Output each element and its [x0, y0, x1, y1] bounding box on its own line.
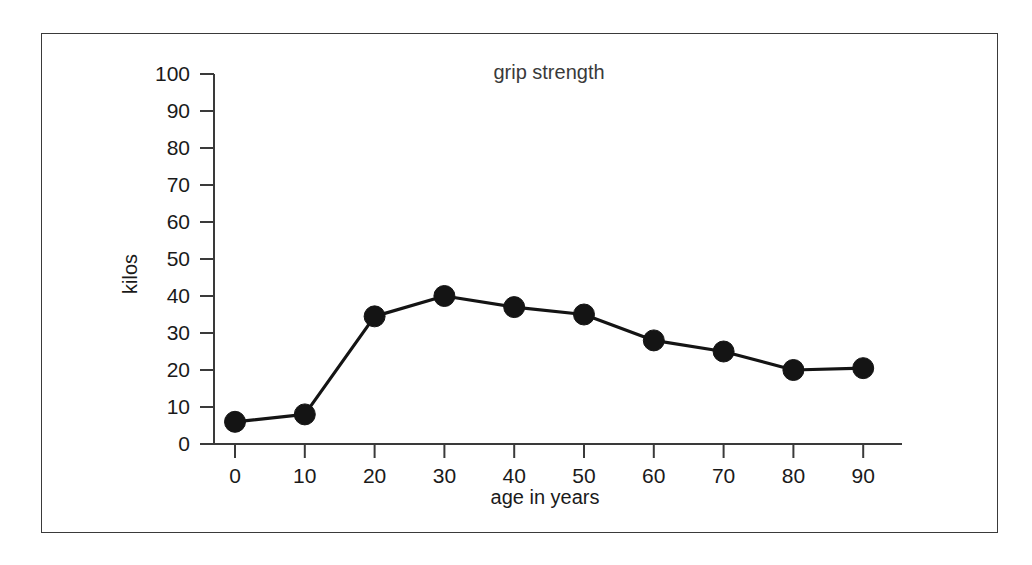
- y-axis-ticks: 0102030405060708090100: [155, 62, 214, 455]
- x-tick-label: 10: [293, 464, 316, 487]
- x-tick-label: 50: [572, 464, 595, 487]
- data-point-marker: [434, 286, 455, 307]
- y-tick-label: 0: [178, 432, 190, 455]
- x-tick-label: 20: [363, 464, 386, 487]
- x-tick-label: 80: [782, 464, 805, 487]
- x-tick-label: 70: [712, 464, 735, 487]
- y-axis-label: kilos: [119, 254, 141, 294]
- x-tick-label: 90: [852, 464, 875, 487]
- data-point-marker: [713, 341, 734, 362]
- y-tick-label: 50: [167, 247, 190, 270]
- chart-title: grip strength: [493, 61, 604, 83]
- figure-frame: grip strength kilos age in years 0102030…: [41, 33, 998, 533]
- x-tick-label: 0: [229, 464, 241, 487]
- y-tick-label: 70: [167, 173, 190, 196]
- x-axis-ticks: 0102030405060708090: [229, 444, 875, 487]
- x-tick-label: 60: [642, 464, 665, 487]
- y-tick-label: 10: [167, 395, 190, 418]
- y-tick-label: 30: [167, 321, 190, 344]
- series-line-grip-strength: [235, 296, 863, 422]
- x-axis-label: age in years: [491, 486, 600, 508]
- y-tick-label: 60: [167, 210, 190, 233]
- data-point-marker: [643, 330, 664, 351]
- data-point-marker: [364, 306, 385, 327]
- data-point-marker: [574, 304, 595, 325]
- data-point-marker: [504, 297, 525, 318]
- line-chart: grip strength kilos age in years 0102030…: [42, 34, 997, 532]
- series-markers: [225, 286, 874, 433]
- data-point-marker: [294, 404, 315, 425]
- y-tick-label: 100: [155, 62, 190, 85]
- y-tick-label: 90: [167, 99, 190, 122]
- y-tick-label: 20: [167, 358, 190, 381]
- data-point-marker: [853, 358, 874, 379]
- data-point-marker: [783, 360, 804, 381]
- y-tick-label: 80: [167, 136, 190, 159]
- y-tick-label: 40: [167, 284, 190, 307]
- data-point-marker: [225, 411, 246, 432]
- x-tick-label: 30: [433, 464, 456, 487]
- page-root: grip strength kilos age in years 0102030…: [0, 0, 1032, 565]
- x-tick-label: 40: [503, 464, 526, 487]
